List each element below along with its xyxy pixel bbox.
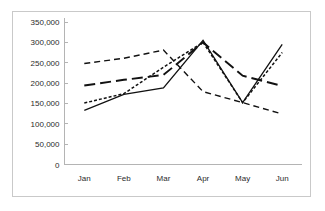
chart-container: 050,000100,000150,000200,000250,000300,0…	[12, 11, 311, 197]
series-line-series-2	[84, 42, 282, 103]
y-axis-tick-label: 50,000	[35, 140, 60, 149]
data-series-group	[84, 40, 282, 114]
line-chart: 050,000100,000150,000200,000250,000300,0…	[13, 12, 312, 198]
y-axis-tick-label: 250,000	[31, 59, 60, 68]
x-axis-tick-label: Jan	[78, 174, 91, 183]
x-axis-tick-label: Mar	[157, 174, 171, 183]
x-axis-tick-label: May	[235, 174, 250, 183]
y-axis-tick-labels: 050,000100,000150,000200,000250,000300,0…	[31, 18, 60, 170]
y-axis-tick-label: 100,000	[31, 120, 60, 129]
y-axis-tick-label: 150,000	[31, 99, 60, 108]
y-axis-tick-label: 200,000	[31, 79, 60, 88]
x-axis-tick-labels: JanFebMarAprMayJun	[78, 174, 289, 183]
x-axis-tick-label: Feb	[117, 174, 131, 183]
y-axis-tick-label: 0	[55, 161, 60, 170]
y-axis-tick-label: 350,000	[31, 18, 60, 27]
series-line-series-1	[84, 40, 282, 110]
x-axis-tick-label: Jun	[276, 174, 289, 183]
x-axis-tick-label: Apr	[197, 174, 210, 183]
y-axis-tick-label: 300,000	[31, 38, 60, 47]
